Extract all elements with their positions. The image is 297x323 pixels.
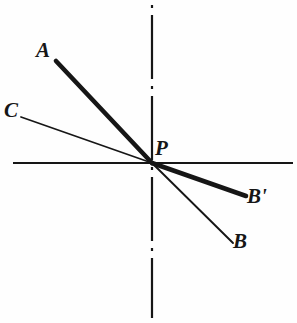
ray-p-to-b-prime	[152, 163, 246, 196]
point-label-b-prime: B'	[247, 186, 267, 207]
point-label-c: C	[4, 100, 18, 121]
point-label-p: P	[155, 138, 168, 159]
point-label-b: B	[233, 231, 247, 252]
point-label-a: A	[36, 40, 50, 61]
ray-p-to-a	[56, 61, 152, 163]
figure-canvas: A C P B' B	[0, 0, 297, 323]
